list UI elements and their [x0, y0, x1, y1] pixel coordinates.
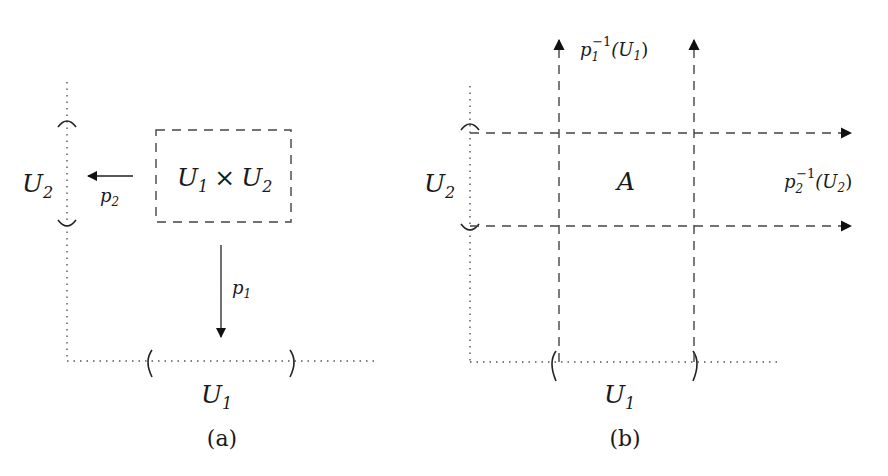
interval-close-paren-u1	[290, 350, 294, 377]
u1-axis-label-a: U1	[201, 380, 232, 413]
u2-axis-label-a: U2	[22, 169, 53, 202]
interval-open-paren-u1	[148, 350, 152, 377]
preimage-p2-label: p2−1(U2)	[784, 166, 852, 196]
u2-axis-label-b: U2	[424, 169, 455, 202]
product-label: U1×U2	[177, 163, 272, 196]
product-topology-diagram: U1×U2 p2 p1 U2 U1 (a) p1−1(U1) p2−1(U2)	[0, 0, 888, 476]
p1-label: p1	[232, 277, 251, 301]
p2-label: p2	[100, 185, 119, 209]
u1-axis-label-b: U1	[604, 380, 635, 413]
caption-b: (b)	[609, 426, 640, 451]
caption-a: (a)	[207, 426, 237, 451]
preimage-p1-label: p1−1(U1)	[580, 34, 648, 64]
interval-open-paren-u2-b	[461, 124, 479, 130]
set-a-label: A	[615, 167, 635, 196]
interval-open-paren-u1-b	[552, 351, 556, 381]
panel-a: U1×U2 p2 p1 U2 U1 (a)	[22, 82, 376, 451]
panel-b: p1−1(U1) p2−1(U2) A U2 U1 (b)	[424, 34, 852, 451]
